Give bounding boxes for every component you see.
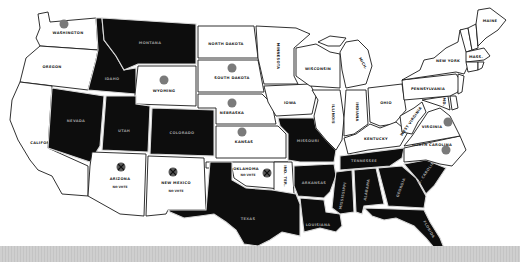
label-massachusetts: MASS. — [469, 55, 483, 59]
dot-marker — [160, 76, 169, 85]
label-missouri: MISSOURI — [297, 139, 319, 143]
label-illinois: ILLINOIS — [331, 104, 335, 124]
label-louisiana: LOUISIANA — [306, 223, 331, 227]
label-washington: WASHINGTON — [53, 31, 84, 35]
label-oregon: OREGON — [42, 65, 61, 69]
label-indian-territory: IND. TER. — [283, 165, 287, 187]
note-oklahoma: NO VOTE — [240, 173, 255, 177]
state-wisconsin: WISCONSIN — [296, 44, 340, 88]
note-arizona: NO VOTE — [112, 185, 127, 189]
label-wisconsin: WISCONSIN — [305, 67, 331, 71]
label-idaho: IDAHO — [105, 77, 120, 81]
bottom-scan-bar — [0, 246, 520, 262]
label-south-dakota: SOUTH DAKOTA — [214, 76, 249, 80]
label-new-mexico: NEW MEXICO — [161, 181, 191, 185]
state-delaware — [450, 96, 458, 110]
state-new-mexico: NEW MEXICO NO VOTE — [146, 156, 206, 216]
dot-marker — [228, 99, 237, 108]
label-ohio: OHIO — [380, 101, 392, 105]
label-maryland: MD. — [442, 98, 446, 107]
label-montana: MONTANA — [139, 41, 161, 45]
state-mississippi: MISSISSIPPI — [332, 170, 354, 214]
state-north-dakota: NORTH DAKOTA — [198, 26, 258, 58]
label-nebraska: NEBRASKA — [220, 111, 244, 115]
state-new-york: NEW YORK — [402, 30, 470, 80]
state-connecticut — [466, 62, 478, 72]
label-north-dakota: NORTH DAKOTA — [208, 42, 243, 46]
state-maine: MAINE — [476, 8, 506, 46]
note-new-mexico: NO VOTE — [168, 189, 183, 193]
label-tennessee: TENNESSEE — [351, 159, 377, 163]
us-states-map: WASHINGTON OREGON CALIFORNIA NEVADA IDAH… — [0, 0, 520, 246]
state-indian-territory: IND. TER. — [274, 162, 294, 194]
label-kentucky: KENTUCKY — [364, 137, 388, 141]
label-utah: UTAH — [118, 129, 130, 133]
label-minnesota: MINNESOTA — [276, 43, 280, 70]
state-south-dakota: SOUTH DAKOTA — [198, 60, 264, 92]
label-texas: TEXAS — [241, 217, 256, 221]
label-iowa: IOWA — [284, 101, 296, 105]
label-arizona: ARIZONA — [110, 177, 130, 181]
state-colorado: COLORADO — [150, 108, 214, 156]
dot-marker — [228, 64, 237, 73]
label-oklahoma: OKLAHOMA — [233, 167, 259, 171]
label-new-york: NEW YORK — [436, 59, 460, 63]
label-kansas: KANSAS — [235, 140, 253, 144]
state-washington: WASHINGTON — [36, 12, 98, 50]
label-arkansas: ARKANSAS — [302, 181, 327, 185]
label-nevada: NEVADA — [67, 119, 85, 123]
dot-marker — [60, 20, 69, 29]
state-kansas: KANSAS — [216, 126, 286, 158]
dot-marker — [444, 118, 453, 127]
label-virginia: VIRGINIA — [422, 125, 443, 129]
state-arizona: ARIZONA NO VOTE — [88, 152, 146, 216]
label-maine: MAINE — [483, 19, 498, 23]
label-pennsylvania: PENNSYLVANIA — [411, 87, 445, 91]
state-nevada: NEVADA — [48, 88, 104, 162]
state-arkansas: ARKANSAS — [294, 164, 336, 198]
state-rhode-island — [478, 62, 484, 70]
state-new-jersey — [458, 74, 464, 94]
state-wyoming: WYOMING — [134, 66, 196, 106]
state-florida: FLORIDA — [364, 208, 444, 246]
dot-marker — [238, 128, 247, 137]
label-wyoming: WYOMING — [153, 89, 175, 93]
label-indiana: INDIANA — [355, 102, 359, 121]
label-colorado: COLORADO — [170, 131, 195, 135]
